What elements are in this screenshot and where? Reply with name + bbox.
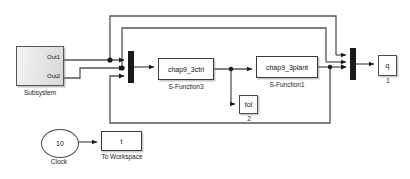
block-clock[interactable]: 10: [41, 129, 79, 158]
junction-plant-out: [328, 65, 332, 69]
to-workspace-caption: To Workspace: [91, 154, 153, 161]
block-tol[interactable]: tol: [239, 95, 258, 114]
output-q-caption: 1: [368, 78, 408, 85]
wire-feedback-top-1: [110, 16, 336, 60]
subsystem-port-out2-label: Out2: [47, 73, 60, 79]
clock-caption: Clock: [39, 159, 79, 166]
block-to-workspace[interactable]: t: [101, 131, 142, 151]
simulink-diagram-canvas: Out1 Out2 Subsystem chap9_3ctrl S-Functi…: [0, 0, 410, 179]
wire-ctrl-to-tol: [231, 69, 235, 104]
sfunction3-caption: S-Function3: [156, 84, 216, 91]
junction-out1: [107, 57, 112, 62]
arrow-mux-right-in3: [341, 65, 346, 70]
block-subsystem[interactable]: Out1 Out2: [16, 46, 64, 86]
block-mux-right[interactable]: [350, 48, 356, 80]
to-workspace-label: t: [121, 138, 123, 145]
block-mux-left[interactable]: [128, 51, 134, 83]
tol-label: tol: [245, 101, 252, 108]
output-q-label: q: [386, 62, 390, 69]
junction-ctrl-out: [229, 67, 233, 71]
clock-label: 10: [56, 140, 64, 147]
sfunction1-caption: S-Function1: [257, 82, 317, 89]
sfunction3-label: chap9_3ctrl: [168, 66, 204, 73]
block-sfunction1[interactable]: chap9_3plant: [256, 56, 318, 78]
arrow-mux-left-in3: [119, 74, 124, 79]
sfunction1-label: chap9_3plant: [266, 64, 308, 71]
block-sfunction3[interactable]: chap9_3ctrl: [158, 58, 214, 80]
block-output-q[interactable]: q: [378, 55, 397, 76]
subsystem-port-out1-label: Out1: [47, 54, 60, 60]
subsystem-caption: Subsystem: [10, 90, 70, 97]
tol-caption: 2: [229, 116, 269, 123]
junction-out2: [119, 65, 124, 70]
